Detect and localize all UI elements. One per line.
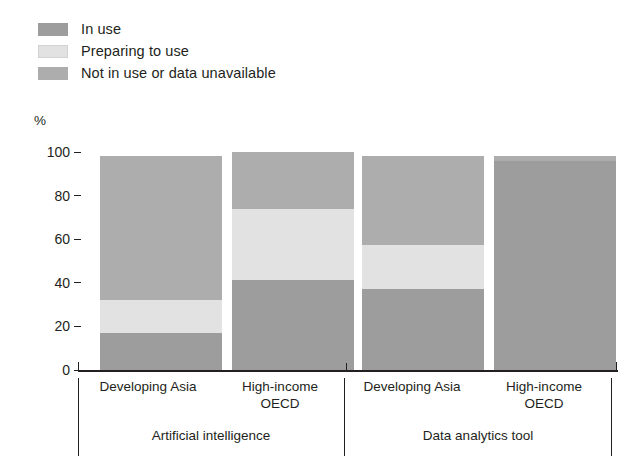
category-line1: High-income <box>216 378 344 395</box>
bar-analytics-high-income-oecd[interactable] <box>494 156 616 370</box>
category-label-analytics-developing-asia: Developing Asia <box>348 378 476 395</box>
category-label-ai-developing-asia: Developing Asia <box>84 378 212 395</box>
group-label-artificial-intelligence: Artificial intelligence <box>78 428 344 443</box>
legend-label-not-in-use: Not in use or data unavailable <box>81 66 276 81</box>
legend-item-not-in-use: Not in use or data unavailable <box>38 62 458 84</box>
bar-segment[interactable] <box>100 333 222 370</box>
y-tick-label-0: 0 <box>40 362 70 378</box>
x-axis-category-labels: Developing Asia High-income OECD Develop… <box>78 378 612 456</box>
bar-segment[interactable] <box>100 300 222 333</box>
bar-segment[interactable] <box>232 280 354 370</box>
category-line1: High-income <box>480 378 608 395</box>
legend-label-in-use: In use <box>81 22 121 37</box>
bar-analytics-developing-asia[interactable] <box>362 156 484 370</box>
y-tick-dash <box>74 326 81 327</box>
y-tick-label-20: 20 <box>40 318 70 334</box>
bar-segment[interactable] <box>494 161 616 370</box>
category-line2: OECD <box>480 395 608 412</box>
y-tick-80: 80 <box>40 188 86 204</box>
bar-segment[interactable] <box>494 156 616 160</box>
bar-segment[interactable] <box>232 209 354 280</box>
legend-swatch-not-in-use <box>38 67 68 80</box>
cats-left-border <box>78 378 79 456</box>
category-line1: Developing Asia <box>84 378 212 395</box>
cats-right-border <box>611 378 612 456</box>
chart-plot-area: 100 80 60 40 20 0 <box>86 152 610 370</box>
y-tick-label-100: 100 <box>40 144 70 160</box>
y-axis-unit-label: % <box>34 113 46 128</box>
y-tick-100: 100 <box>40 144 86 160</box>
chart-legend: In use Preparing to use Not in use or da… <box>38 18 458 84</box>
x-axis-right-cap <box>616 362 617 371</box>
legend-item-preparing: Preparing to use <box>38 40 458 62</box>
y-tick-40: 40 <box>40 275 86 291</box>
cats-group-divider <box>344 378 345 456</box>
legend-swatch-in-use <box>38 23 68 36</box>
y-tick-dash <box>74 195 81 196</box>
bar-segment[interactable] <box>232 152 354 209</box>
bar-segment[interactable] <box>100 156 222 300</box>
bar-segment[interactable] <box>362 245 484 290</box>
legend-swatch-preparing <box>38 45 68 58</box>
legend-item-in-use: In use <box>38 18 458 40</box>
y-tick-dash <box>74 282 81 283</box>
y-tick-20: 20 <box>40 318 86 334</box>
bar-segment[interactable] <box>362 289 484 370</box>
y-tick-label-60: 60 <box>40 231 70 247</box>
legend-label-preparing: Preparing to use <box>81 44 189 59</box>
x-axis-group-divider-tick <box>346 363 347 372</box>
group-label-data-analytics-tool: Data analytics tool <box>345 428 611 443</box>
x-axis-baseline <box>78 370 618 372</box>
category-line2: OECD <box>216 395 344 412</box>
category-label-ai-high-income-oecd: High-income OECD <box>216 378 344 412</box>
bar-ai-high-income-oecd[interactable] <box>232 152 354 370</box>
bar-ai-developing-asia[interactable] <box>100 156 222 370</box>
x-axis-left-cap <box>78 362 79 371</box>
bar-segment[interactable] <box>362 156 484 244</box>
y-tick-dash <box>74 239 81 240</box>
y-tick-label-80: 80 <box>40 188 70 204</box>
y-tick-dash <box>74 152 81 153</box>
y-tick-label-40: 40 <box>40 275 70 291</box>
category-label-analytics-high-income-oecd: High-income OECD <box>480 378 608 412</box>
y-tick-60: 60 <box>40 231 86 247</box>
category-line1: Developing Asia <box>348 378 476 395</box>
